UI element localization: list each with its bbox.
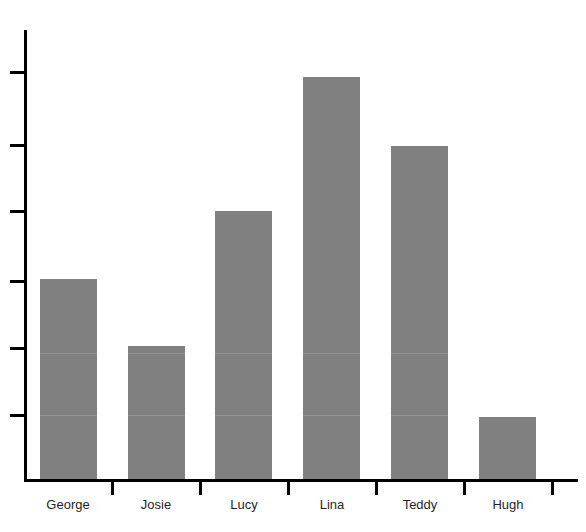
x-axis-tick (287, 481, 290, 495)
x-axis-label: Lucy (194, 497, 294, 512)
bar[interactable] (40, 279, 97, 479)
x-axis-label: Josie (106, 497, 206, 512)
bar-seam (303, 353, 360, 354)
bar-seam (303, 415, 360, 416)
x-axis-label: George (18, 497, 118, 512)
x-axis-tick (463, 481, 466, 495)
bar-seam (391, 353, 448, 354)
bar-seam (391, 415, 448, 416)
bar-seam (128, 415, 185, 416)
x-axis-label: Teddy (370, 497, 470, 512)
y-axis-tick (10, 144, 27, 147)
y-axis-tick (10, 414, 27, 417)
plot-area: GeorgeJosieLucyLinaTeddyHugh (0, 0, 586, 532)
bar-seam (40, 353, 97, 354)
bar[interactable] (303, 77, 360, 479)
x-axis-line (24, 479, 578, 482)
bar-seam (215, 415, 272, 416)
x-axis-tick (111, 481, 114, 495)
bar-chart: Who would like to work in Chinese? Georg… (0, 0, 586, 532)
x-axis-tick (375, 481, 378, 495)
y-axis-tick (10, 210, 27, 213)
bar[interactable] (391, 146, 448, 479)
x-axis-label: Hugh (458, 497, 558, 512)
bar[interactable] (215, 211, 272, 479)
x-axis-tick (551, 481, 554, 495)
y-axis-tick (10, 280, 27, 283)
x-axis-label: Lina (282, 497, 382, 512)
y-axis-tick (10, 71, 27, 74)
bar[interactable] (479, 417, 536, 479)
y-axis-tick (10, 347, 27, 350)
bar-seam (40, 415, 97, 416)
bar-seam (215, 353, 272, 354)
bar[interactable] (128, 346, 185, 479)
bar-seam (128, 353, 185, 354)
x-axis-tick (199, 481, 202, 495)
